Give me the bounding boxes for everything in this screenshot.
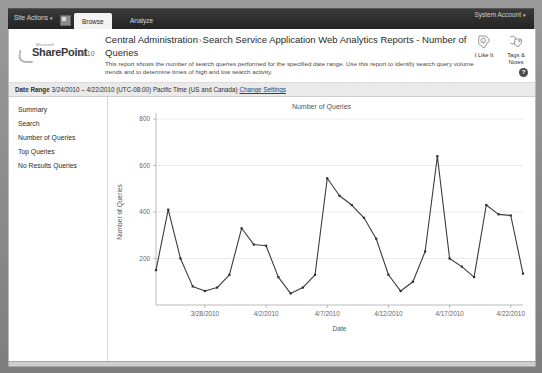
sidebar-item-top-queries[interactable]: Top Queries xyxy=(9,145,107,159)
svg-text:3/28/2010: 3/28/2010 xyxy=(191,310,220,317)
tab-browse-label: Browse xyxy=(82,18,104,25)
user-menu[interactable]: System Account▾ xyxy=(474,11,526,18)
sidebar-item-label: Summary xyxy=(18,106,47,113)
sidebar-item-search[interactable]: Search xyxy=(9,116,107,130)
sidebar-item-label: Number of Queries xyxy=(18,134,75,141)
number-of-queries-line-chart: 2004006008003/28/20104/2/20104/7/20104/1… xyxy=(108,97,535,362)
svg-text:4/22/2010: 4/22/2010 xyxy=(497,310,526,317)
svg-text:400: 400 xyxy=(139,208,150,215)
chevron-down-icon: ▾ xyxy=(523,12,526,18)
tags-notes-icon xyxy=(501,35,531,52)
i-like-it-label: I Like It xyxy=(475,52,494,58)
svg-text:4/7/2010: 4/7/2010 xyxy=(315,310,340,317)
svg-text:4/2/2010: 4/2/2010 xyxy=(254,310,279,317)
sidebar-item-label: Search xyxy=(18,120,40,127)
sidebar-item-number-of-queries[interactable]: Number of Queries xyxy=(9,130,107,144)
ribbon-bar: Site Actions▾ Browse Analyze System Acco… xyxy=(8,8,534,30)
browser-window: Site Actions▾ Browse Analyze System Acco… xyxy=(0,0,542,373)
site-actions-menu[interactable]: Site Actions▾ xyxy=(14,14,53,21)
logo-year: 2010 xyxy=(79,50,95,57)
page-body: Microsoft SharePoint 2010 Central Admini… xyxy=(8,29,536,362)
breadcrumb-root[interactable]: Central Administration xyxy=(105,34,198,45)
site-actions-label: Site Actions xyxy=(14,14,48,21)
i-like-it-button[interactable]: I Like It xyxy=(469,35,499,59)
tab-analyze-label: Analyze xyxy=(130,17,153,24)
page-title: Central Administration›Search Service Ap… xyxy=(105,34,473,59)
like-tag-icon xyxy=(469,35,499,52)
svg-text:Date: Date xyxy=(333,325,347,332)
navigate-up-icon[interactable] xyxy=(60,15,71,26)
date-range-label: Date Range xyxy=(15,86,50,93)
tab-browse[interactable]: Browse xyxy=(74,13,112,30)
chart-container: Number of Queries 2004006008003/28/20104… xyxy=(108,97,535,362)
sharepoint-logo[interactable]: Microsoft SharePoint 2010 xyxy=(18,43,100,63)
tags-and-notes-label: Tags & Notes xyxy=(507,52,525,65)
report-description: This report shows the number of search q… xyxy=(105,60,477,77)
svg-text:4/17/2010: 4/17/2010 xyxy=(435,310,464,317)
left-navigation: Summary Search Number of Queries Top Que… xyxy=(9,97,108,362)
svg-text:4/12/2010: 4/12/2010 xyxy=(374,310,403,317)
help-icon[interactable]: ? xyxy=(519,68,528,77)
date-range-value: 3/24/2010 – 4/22/2010 (UTC-08:00) Pacifi… xyxy=(51,86,237,93)
svg-text:800: 800 xyxy=(139,115,150,122)
page-header: Microsoft SharePoint 2010 Central Admini… xyxy=(9,29,535,83)
sidebar-item-label: No Results Queries xyxy=(18,162,77,169)
sidebar-item-summary[interactable]: Summary xyxy=(9,102,107,116)
page-content: Summary Search Number of Queries Top Que… xyxy=(9,97,535,362)
change-settings-link[interactable]: Change Settings xyxy=(239,86,286,93)
svg-text:Number of Queries: Number of Queries xyxy=(116,183,124,239)
svg-text:600: 600 xyxy=(139,162,150,169)
user-menu-label: System Account xyxy=(474,11,521,18)
tags-and-notes-button[interactable]: Tags & Notes xyxy=(501,35,531,66)
chevron-down-icon: ▾ xyxy=(50,15,53,21)
sidebar-item-label: Top Queries xyxy=(18,148,55,155)
svg-text:200: 200 xyxy=(139,255,150,262)
tab-analyze[interactable]: Analyze xyxy=(122,12,161,30)
date-range-bar: Date Range 3/24/2010 – 4/22/2010 (UTC-08… xyxy=(9,83,535,97)
sidebar-item-no-results-queries[interactable]: No Results Queries xyxy=(9,159,107,173)
horizontal-scrollbar[interactable] xyxy=(8,361,536,367)
